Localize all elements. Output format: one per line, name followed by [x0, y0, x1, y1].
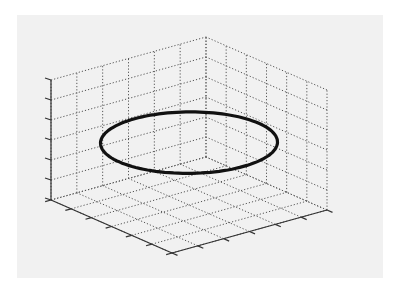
plot-panel [17, 15, 383, 278]
3d-plot-figure [0, 0, 398, 292]
